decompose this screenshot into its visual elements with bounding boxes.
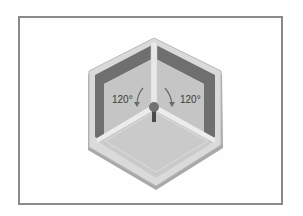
center-knob (149, 102, 159, 112)
hex-box-diagram: 120° 120° (0, 0, 303, 216)
left-angle-label: 120° (112, 94, 133, 105)
right-angle-label: 120° (180, 94, 201, 105)
corner-post (151, 42, 157, 106)
